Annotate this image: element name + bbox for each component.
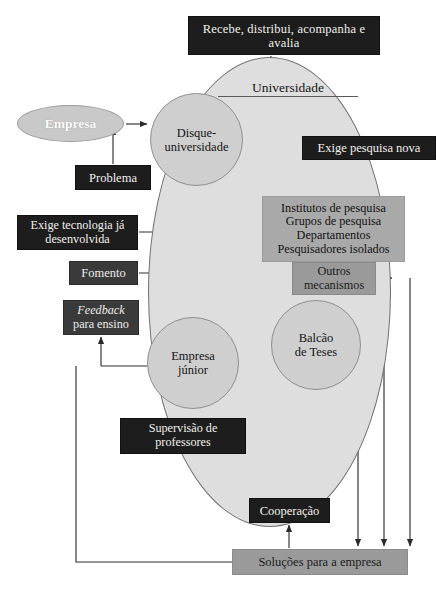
node-feedback-line1: Feedback bbox=[64, 304, 138, 318]
node-disque-line2: universidade bbox=[165, 140, 229, 154]
node-cooperacao-label: Cooperação bbox=[250, 504, 329, 518]
node-feedback-para-ensino: Feedback para ensino bbox=[63, 300, 139, 335]
node-exige-pesquisa-nova: Exige pesquisa nova bbox=[302, 136, 436, 160]
universidade-label: Universidade bbox=[218, 80, 358, 95]
node-empresa: Empresa bbox=[17, 105, 124, 142]
node-solucoes-label: Soluções para a empresa bbox=[233, 555, 407, 569]
node-balcao-de-teses: Balcão de Teses bbox=[271, 300, 361, 390]
node-exige-pesquisa-nova-label: Exige pesquisa nova bbox=[303, 141, 435, 155]
node-feedback-line2: para ensino bbox=[64, 318, 138, 332]
node-institutos-grupos: Institutos de pesquisa Grupos de pesquis… bbox=[262, 196, 405, 262]
diagram-canvas: Recebe, distribui, acompanha e avalia Un… bbox=[0, 0, 437, 590]
institutos-line-3: Pesquisadores isolados bbox=[261, 243, 406, 257]
node-disque-universidade: Disque- universidade bbox=[150, 93, 243, 186]
figure-caption bbox=[18, 576, 138, 588]
node-empresa-junior: Empresa júnior bbox=[147, 317, 239, 409]
node-supervisao-de-professores: Supervisão de professores bbox=[120, 418, 246, 454]
node-problema: Problema bbox=[75, 165, 151, 190]
node-supervisao-line1: Supervisão de bbox=[121, 422, 245, 436]
institutos-line-1: Grupos de pesquisa bbox=[261, 215, 406, 229]
node-empresa-label: Empresa bbox=[18, 116, 123, 131]
node-outros-line2: mecanismos bbox=[293, 279, 375, 293]
node-supervisao-line2: professores bbox=[121, 436, 245, 450]
node-exige-tecnologia: Exige tecnologia já desenvolvida bbox=[17, 215, 138, 250]
node-empresa-junior-line2: júnior bbox=[148, 363, 238, 377]
node-exige-tecnologia-label: Exige tecnologia já desenvolvida bbox=[18, 219, 137, 246]
node-cooperacao: Cooperação bbox=[249, 498, 330, 523]
node-recebe-label: Recebe, distribui, acompanha e avalia bbox=[189, 22, 379, 50]
node-outros-line1: Outros bbox=[293, 265, 375, 279]
universidade-label-underline: Universidade bbox=[218, 79, 358, 97]
node-disque-line1: Disque- bbox=[165, 126, 229, 140]
institutos-line-2: Departamentos bbox=[261, 229, 406, 243]
node-balcao-line1: Balcão bbox=[272, 331, 360, 345]
node-balcao-line2: de Teses bbox=[272, 345, 360, 359]
node-problema-label: Problema bbox=[76, 171, 150, 185]
node-empresa-junior-line1: Empresa bbox=[148, 349, 238, 363]
node-recebe-distribui: Recebe, distribui, acompanha e avalia bbox=[188, 16, 380, 55]
node-fomento: Fomento bbox=[69, 261, 138, 285]
node-fomento-label: Fomento bbox=[70, 266, 137, 280]
institutos-line-0: Institutos de pesquisa bbox=[261, 202, 406, 216]
node-outros-mecanismos: Outros mecanismos bbox=[292, 262, 376, 295]
node-solucoes-para-a-empresa: Soluções para a empresa bbox=[232, 549, 408, 575]
